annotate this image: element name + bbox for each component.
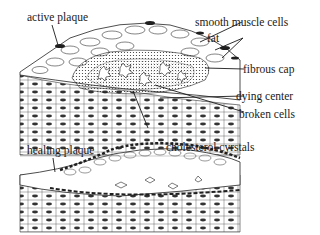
label-smooth-muscle-cells: smooth muscle cells: [195, 17, 288, 29]
label-broken-cells: broken cells: [239, 109, 295, 121]
label-fibrous-cap: fibrous cap: [243, 64, 294, 76]
label-cholesterol-crystals: cholesterol cyrstals: [166, 142, 254, 154]
label-active-plaque: active plaque: [27, 12, 88, 24]
label-fat: fat: [207, 33, 219, 45]
label-dying-center: dying center: [236, 91, 293, 103]
label-healing-plaque: healing plaque: [27, 145, 94, 157]
healing-plaque-illustration: [20, 143, 240, 232]
